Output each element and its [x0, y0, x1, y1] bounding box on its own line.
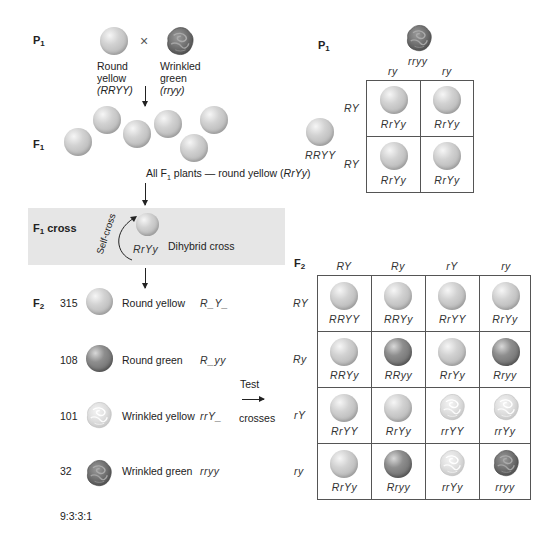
left-parent-genotype: RRYY — [305, 149, 336, 161]
col-header: ry — [388, 65, 398, 77]
round-yellow-pea-icon — [380, 142, 408, 170]
f1-pea-icon — [154, 110, 182, 138]
punnett-cell: RRYY — [318, 276, 371, 331]
row-header: RY — [344, 102, 359, 114]
phenotype-count: 32 — [60, 465, 72, 477]
arrow-down-icon — [145, 86, 146, 106]
round-yellow-pea-icon — [433, 86, 461, 114]
f1-pea-icon — [180, 134, 208, 162]
p1-punnett-label: P1 — [318, 39, 330, 53]
punnett-cell: RrYY — [318, 388, 371, 443]
row-header: ry — [294, 465, 304, 477]
parent-yellow-label: Round yellow (RRYY) — [97, 60, 133, 96]
punnett-cell: RrYy — [421, 137, 473, 192]
grid-line — [317, 499, 531, 500]
cell-genotype: RrYy — [372, 425, 425, 437]
round-yellow-pea-icon — [330, 338, 358, 366]
wrinkled-yellow-pea-icon — [84, 399, 114, 431]
grid-line — [530, 275, 531, 500]
round-yellow-pea-icon — [384, 394, 412, 422]
punnett-cell: RrYy — [426, 332, 479, 387]
arrow-down-icon — [145, 183, 146, 205]
round-yellow-pea-icon — [438, 282, 466, 310]
cell-genotype: RrYy — [318, 481, 371, 493]
cell-genotype: RRYY — [318, 313, 371, 325]
phenotype-name: Wrinkled yellow — [122, 410, 195, 422]
cell-genotype: RrYy — [480, 313, 530, 325]
grid-line — [473, 80, 474, 193]
f2-label: F2 — [33, 297, 44, 311]
round-yellow-pea-icon — [384, 282, 412, 310]
f1-pea-icon — [64, 128, 92, 156]
row-header: RY — [293, 297, 308, 309]
test-label: Test — [240, 378, 259, 390]
wrinkled-green-pea-icon — [491, 447, 521, 479]
col-header: ry — [479, 260, 533, 272]
punnett-cell: RRYy — [318, 332, 371, 387]
round-yellow-pea-icon — [492, 282, 520, 310]
round-yellow-pea-icon — [433, 142, 461, 170]
punnett-cell: rryy — [480, 444, 530, 499]
cell-genotype: rrYy — [480, 425, 530, 437]
cell-genotype: RrYY — [318, 425, 371, 437]
punnett-cell: rrYy — [480, 388, 530, 443]
f1-cross-label: F1 cross — [33, 222, 77, 236]
phenotype-count: 315 — [60, 297, 78, 309]
cell-genotype: RrYy — [421, 118, 473, 130]
wrinkled-yellow-pea-icon — [437, 447, 467, 479]
punnett-cell: RrYy — [372, 388, 425, 443]
punnett-cell: Rryy — [372, 444, 425, 499]
cell-genotype: RRYy — [318, 369, 371, 381]
left-parent-pea-icon — [306, 118, 334, 146]
punnett-cell: RRyy — [372, 332, 425, 387]
top-parent-genotype: rryy — [408, 55, 428, 67]
round-yellow-pea-icon — [100, 27, 128, 55]
punnett-cell: RrYy — [318, 444, 371, 499]
cell-genotype: Rryy — [372, 481, 425, 493]
round-green-pea-icon — [384, 338, 412, 366]
punnett-cell: RrYy — [367, 137, 420, 192]
cross-symbol: × — [140, 33, 148, 49]
phenotype-name: Wrinkled green — [122, 465, 192, 477]
wrinkled-green-pea-icon — [84, 457, 114, 489]
punnett-cell: RrYy — [367, 81, 420, 136]
cell-genotype: rryy — [480, 481, 530, 493]
wrinkled-green-pea-icon — [164, 25, 196, 57]
cell-genotype: rrYY — [426, 425, 479, 437]
p1-label: P1 — [33, 34, 45, 48]
wrinkled-yellow-pea-icon — [491, 391, 521, 423]
f1-cross-genotype: RrYy — [133, 243, 158, 255]
round-yellow-pea-icon — [330, 394, 358, 422]
phenotype-count: 101 — [60, 410, 78, 422]
col-header: RY — [317, 260, 371, 272]
round-yellow-pea-icon — [86, 288, 113, 315]
wrinkled-yellow-pea-icon — [437, 391, 467, 423]
dihybrid-cross-label: Dihybrid cross — [168, 240, 235, 252]
round-yellow-pea-icon — [330, 282, 358, 310]
col-header: ry — [442, 65, 452, 77]
row-header: Ry — [293, 353, 307, 365]
cell-genotype: Rryy — [480, 369, 530, 381]
punnett-cell: rrYy — [426, 444, 479, 499]
f1-cross-pea-icon — [136, 213, 159, 236]
cell-genotype: RRYy — [372, 313, 425, 325]
punnett-cell: RrYY — [426, 276, 479, 331]
phenotype-genotype: rryy — [200, 465, 220, 477]
crosses-label: crosses — [239, 412, 275, 424]
punnett-cell: RrYy — [480, 276, 530, 331]
phenotype-name: Round yellow — [122, 297, 185, 309]
col-header: rY — [425, 260, 479, 272]
punnett-cell: Rryy — [480, 332, 530, 387]
wrinkled-green-pea-icon — [404, 22, 434, 54]
row-header: RY — [344, 158, 359, 170]
round-yellow-pea-icon — [438, 338, 466, 366]
cell-genotype: RRyy — [372, 369, 425, 381]
col-header: Ry — [371, 260, 425, 272]
f1-label: F1 — [33, 138, 44, 152]
cell-genotype: rrYy — [426, 481, 479, 493]
phenotype-genotype: R_yy — [200, 354, 226, 366]
phenotype-name: Round green — [122, 354, 183, 366]
row-header: rY — [294, 409, 306, 421]
cell-genotype: RrYy — [421, 174, 473, 186]
phenotype-count: 108 — [60, 354, 78, 366]
